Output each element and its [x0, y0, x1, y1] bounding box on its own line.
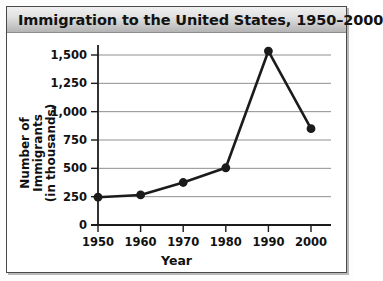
- data-point-marker: [307, 124, 316, 133]
- data-point-marker: [264, 47, 273, 56]
- x-tick-label: 1990: [252, 235, 284, 249]
- chart-title-band: Immigration to the United States, 1950–2…: [7, 7, 346, 33]
- x-axis-title: Year: [7, 253, 346, 268]
- y-tick-label: 0: [79, 218, 87, 232]
- y-tick-label: 750: [63, 133, 87, 147]
- data-point-marker: [221, 163, 230, 172]
- plot-area-wrapper: Number of Immigrants (in thousands) 0250…: [7, 33, 346, 272]
- chart-frame: Immigration to the United States, 1950–2…: [6, 6, 347, 273]
- x-tick-label: 2000: [295, 235, 327, 249]
- x-tick-label: 1960: [125, 235, 157, 249]
- y-tick-label: 1,000: [51, 105, 87, 119]
- x-tick-label: 1970: [167, 235, 199, 249]
- data-point-marker: [94, 193, 103, 202]
- data-line: [98, 51, 311, 197]
- x-tick-label: 1980: [210, 235, 242, 249]
- x-tick-label: 1950: [82, 235, 114, 249]
- data-point-marker: [136, 191, 145, 200]
- line-chart-plot: 02505007501,0001,2501,500195019601970198…: [7, 33, 355, 281]
- y-tick-label: 500: [63, 161, 87, 175]
- y-tick-label: 1,250: [51, 76, 87, 90]
- y-tick-label: 1,500: [51, 48, 87, 62]
- chart-title: Immigration to the United States, 1950–2…: [7, 12, 383, 28]
- data-point-marker: [179, 178, 188, 187]
- y-tick-label: 250: [63, 190, 87, 204]
